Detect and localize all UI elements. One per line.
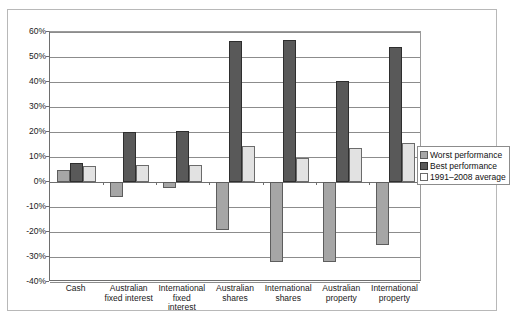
y-axis-tick-mark	[46, 281, 49, 282]
x-axis-category-label: International fixed interest	[155, 284, 208, 313]
x-axis-category-label: Australian property	[315, 284, 368, 303]
x-axis-tick-mark	[316, 182, 317, 185]
x-axis-tick-mark	[369, 182, 370, 185]
bar-group	[156, 32, 209, 282]
y-axis-tick-label: -10%	[8, 202, 46, 210]
bar-worst	[376, 182, 389, 245]
y-axis-tick-label: 50%	[8, 52, 46, 60]
y-axis-tick-label: 10%	[8, 152, 46, 160]
bar-best	[389, 47, 402, 182]
x-axis-tick-mark	[209, 182, 210, 185]
bar-best	[229, 41, 242, 182]
bar-best	[176, 131, 189, 182]
x-axis-category-label: International shares	[262, 284, 315, 303]
legend-item[interactable]: Best performance	[420, 160, 506, 171]
x-axis-tick-mark	[263, 182, 264, 185]
bar-avg	[296, 158, 309, 182]
legend-item[interactable]: 1991–2008 average	[420, 171, 506, 182]
y-axis-tick-label: 30%	[8, 102, 46, 110]
y-axis-tick-label: -20%	[8, 227, 46, 235]
legend-item-label: Best performance	[430, 161, 497, 171]
bar-worst	[216, 182, 229, 230]
bar-avg	[242, 146, 255, 182]
bar-avg	[349, 148, 362, 182]
y-axis-tick-label: -40%	[8, 277, 46, 285]
bar-avg	[189, 165, 202, 183]
bar-best	[123, 132, 136, 182]
x-axis: CashAustralian fixed interestInternation…	[49, 284, 421, 320]
x-axis-category-label: Australian shares	[208, 284, 261, 303]
x-axis-tick-mark	[156, 182, 157, 185]
bar-worst	[270, 182, 283, 262]
plot-area	[49, 31, 421, 281]
bar-avg	[83, 166, 96, 182]
bar-worst	[163, 182, 176, 188]
legend-swatch-icon	[420, 151, 428, 159]
bar-best	[336, 81, 349, 182]
y-axis-tick-label: 60%	[8, 27, 46, 35]
x-axis-category-label: Australian fixed interest	[102, 284, 155, 303]
legend-swatch-icon	[420, 173, 428, 181]
y-axis-tick-label: 40%	[8, 77, 46, 85]
x-axis-category-label: Cash	[49, 284, 102, 294]
chart-figure: 60%50%40%30%20%10%0%-10%-20%-30%-40% Cas…	[7, 9, 497, 311]
bar-group	[103, 32, 156, 282]
bar-avg	[136, 165, 149, 183]
bar-avg	[402, 143, 415, 182]
bar-worst	[57, 170, 70, 183]
legend-swatch-icon	[420, 162, 428, 170]
bar-group	[369, 32, 422, 282]
legend-item-label: 1991–2008 average	[430, 172, 506, 182]
chart-legend: Worst performanceBest performance1991–20…	[417, 146, 510, 185]
y-axis: 60%50%40%30%20%10%0%-10%-20%-30%-40%	[8, 31, 46, 281]
bar-best	[70, 163, 83, 182]
bar-group	[209, 32, 262, 282]
x-axis-category-label: International property	[368, 284, 421, 303]
bar-group	[316, 32, 369, 282]
bar-worst	[323, 182, 336, 262]
bar-group	[263, 32, 316, 282]
x-axis-tick-mark	[103, 182, 104, 185]
bar-group	[50, 32, 103, 282]
y-axis-tick-label: -30%	[8, 252, 46, 260]
bar-best	[283, 40, 296, 183]
legend-item[interactable]: Worst performance	[420, 149, 506, 160]
y-axis-tick-label: 0%	[8, 177, 46, 185]
legend-item-label: Worst performance	[430, 150, 502, 160]
bar-worst	[110, 182, 123, 197]
y-axis-tick-label: 20%	[8, 127, 46, 135]
